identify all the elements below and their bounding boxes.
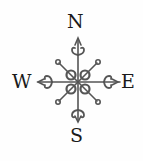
compass-rose-icon: [0, 0, 143, 161]
compass-rose-image: N W E S: [0, 0, 143, 161]
